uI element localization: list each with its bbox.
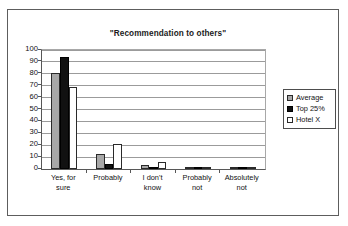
y-axis-tick-labels: 0102030405060708090100 [14,49,38,170]
chart-legend: Average Top 25% Hotel X [283,89,336,129]
bar[interactable] [113,144,122,169]
x-axis-tick-mark [219,170,220,173]
bar-group [51,50,77,169]
y-axis-tick-label: 20 [16,140,38,148]
legend-item-hotelx[interactable]: Hotel X [287,115,332,125]
bar-group [96,50,122,169]
y-axis-tick-label: 80 [16,69,38,77]
x-axis-tick-labels: Yes, forsureProbablyI don'tknowProbablyn… [41,173,266,205]
legend-label-top25: Top 25% [296,105,325,113]
x-axis-tick-mark [86,170,87,173]
x-axis-tick-mark [130,170,131,173]
y-axis-tick-mark [38,144,41,145]
bar-group [141,50,167,169]
y-axis-tick-label: 30 [16,128,38,136]
bar[interactable] [105,164,114,169]
y-axis-tick-mark [38,168,41,169]
bar[interactable] [141,165,150,169]
top25-swatch-icon [287,106,293,112]
bar[interactable] [60,57,69,169]
y-axis-tick-mark [38,96,41,97]
bar[interactable] [202,167,211,169]
y-axis-tick-label: 40 [16,116,38,124]
y-axis-tick-mark [38,72,41,73]
y-axis-tick-label: 10 [16,152,38,160]
bar-group [230,50,256,169]
y-axis-tick-mark [38,60,41,61]
y-axis-tick-label: 70 [16,81,38,89]
y-axis-tick-label: 100 [16,45,38,53]
bar[interactable] [247,167,256,169]
bar[interactable] [149,167,158,169]
average-swatch-icon [287,95,293,101]
y-axis-tick-label: 90 [16,57,38,65]
y-axis-tick-mark [38,108,41,109]
bar-group [185,50,211,169]
bar[interactable] [158,162,167,169]
y-axis-tick-mark [38,49,41,50]
y-axis-tick-label: 50 [16,105,38,113]
y-axis-tick-mark [38,120,41,121]
bar[interactable] [194,167,203,169]
y-axis-tick-label: 60 [16,93,38,101]
y-axis-tick-mark [38,132,41,133]
y-axis-tick-mark [38,84,41,85]
x-axis-tick-mark [175,170,176,173]
bar[interactable] [96,154,105,169]
y-axis-tick-mark [38,156,41,157]
legend-label-hotelx: Hotel X [296,116,320,124]
chart-title: "Recommendation to others" [18,29,318,38]
chart-figure: "Recommendation to others" 0102030405060… [0,0,348,226]
bar[interactable] [230,167,239,169]
bar[interactable] [185,167,194,169]
legend-item-average[interactable]: Average [287,93,332,103]
plot-area [41,49,266,170]
hotelx-swatch-icon [287,117,293,123]
bar[interactable] [238,167,247,169]
bar[interactable] [69,87,78,169]
y-axis-tick-label: 0 [16,164,38,172]
legend-label-average: Average [296,94,323,102]
x-axis-tick-label: Absolutelynot [212,173,271,192]
bar[interactable] [51,73,60,169]
legend-item-top25[interactable]: Top 25% [287,104,332,114]
